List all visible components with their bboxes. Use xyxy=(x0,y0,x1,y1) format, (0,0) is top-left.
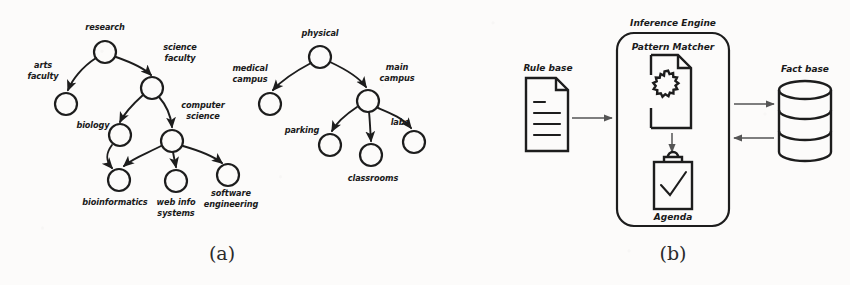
node-labs[interactable] xyxy=(403,131,425,153)
panel-b: Inference Engine Pattern Matcher xyxy=(523,18,831,264)
node-web-info-systems[interactable] xyxy=(165,170,187,192)
label-science-faculty: science xyxy=(163,42,197,52)
label-physical: physical xyxy=(300,28,338,38)
figure-svg: research arts faculty science faculty bi… xyxy=(0,0,850,285)
edge-computer-sci-software-eng xyxy=(183,146,222,163)
edge-science-faculty-biology xyxy=(120,95,143,122)
edge-physical-main-campus xyxy=(330,62,366,87)
physical-tree: physical medical campus main campus park… xyxy=(232,28,425,183)
label-software-engineering: software xyxy=(211,188,251,198)
edge-computer-sci-web-info-systems xyxy=(173,152,176,167)
node-biology[interactable] xyxy=(109,124,131,146)
node-software-engineering[interactable] xyxy=(217,164,239,186)
label-computer-science: computer xyxy=(181,100,225,110)
label-main-campus-2: campus xyxy=(380,73,415,83)
label-fact-base: Fact base xyxy=(781,64,829,74)
node-science-faculty[interactable] xyxy=(141,77,163,99)
node-main-campus[interactable] xyxy=(357,90,379,112)
label-medical-campus: medical xyxy=(232,63,268,73)
node-parking[interactable] xyxy=(319,134,341,156)
document-gear-icon[interactable] xyxy=(651,55,691,128)
clipboard-check-icon[interactable] xyxy=(654,152,692,209)
inference-engine-box[interactable] xyxy=(617,33,729,226)
label-science-faculty-2: faculty xyxy=(164,53,196,63)
academic-tree-labels: research arts faculty science faculty bi… xyxy=(27,22,258,218)
node-physical[interactable] xyxy=(309,46,331,68)
database-cylinder-icon[interactable] xyxy=(779,81,831,161)
edge-science-faculty-computer-sci xyxy=(159,97,172,127)
edge-physical-medical-campus xyxy=(273,63,311,90)
label-arts-faculty: arts xyxy=(34,60,52,70)
label-computer-science-2: science xyxy=(186,111,220,121)
edge-computer-sci-bioinformatics xyxy=(124,146,161,166)
label-labs: labs xyxy=(391,117,410,127)
label-classrooms: classrooms xyxy=(348,173,399,183)
caption-b: (b) xyxy=(660,242,687,264)
label-arts-faculty-2: faculty xyxy=(27,71,59,81)
label-inference-engine: Inference Engine xyxy=(630,18,716,28)
node-bioinformatics[interactable] xyxy=(108,169,130,191)
label-software-engineering-2: engineering xyxy=(204,199,259,209)
label-pattern-matcher: Pattern Matcher xyxy=(632,42,715,52)
label-bioinformatics: bioinformatics xyxy=(82,197,147,207)
figure-canvas: research arts faculty science faculty bi… xyxy=(0,0,850,285)
node-medical-campus[interactable] xyxy=(259,93,281,115)
label-research: research xyxy=(85,22,125,32)
label-parking: parking xyxy=(284,125,320,135)
node-research[interactable] xyxy=(94,41,116,63)
edge-research-arts-faculty xyxy=(68,58,96,90)
caption-a: (a) xyxy=(209,242,235,264)
label-web-info-systems-2: systems xyxy=(157,208,194,218)
node-classrooms[interactable] xyxy=(360,144,382,166)
document-lines-icon[interactable] xyxy=(526,78,568,151)
label-web-info-systems: web info xyxy=(157,197,196,207)
label-biology: biology xyxy=(76,120,110,130)
edge-research-science-faculty xyxy=(116,57,151,75)
label-rule-base: Rule base xyxy=(523,63,572,73)
label-main-campus: main xyxy=(386,62,409,72)
edge-main-campus-classrooms xyxy=(369,112,371,141)
node-computer-science[interactable] xyxy=(161,130,183,152)
edge-biology-bioinformatics xyxy=(107,145,112,168)
node-arts-faculty[interactable] xyxy=(55,93,77,115)
label-medical-campus-2: campus xyxy=(233,74,268,84)
edge-main-campus-parking xyxy=(332,107,357,131)
label-agenda: Agenda xyxy=(653,212,692,222)
academic-tree: research arts faculty science faculty bi… xyxy=(27,22,258,218)
